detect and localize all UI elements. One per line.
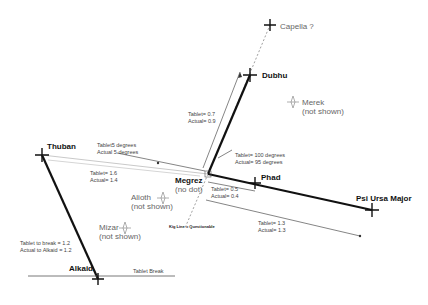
measure-actual: Actual 5 degrees [97,149,138,156]
dubhu-label: Dubhu [262,71,287,80]
measure-actual: Actual= 0.4 [211,193,239,200]
thuban-dist-arrow [48,160,200,176]
star-diagram [0,0,428,305]
alkaid-label: Alkaid [69,264,93,273]
measure-actual: Actual to Alkaid = 1.2 [20,247,72,254]
measure-tablet: Tablet= 1.6 [90,170,118,177]
phad-label: Phad [261,173,281,182]
measure-tablet: Tablet to break = 1.2 [20,240,72,247]
thuban-angle-measurement: Tablet5 degrees Actual 5 degrees [97,142,138,156]
psi-ursa-major-label: Psi Ursa Major [356,194,412,203]
megrez-note: (no dot) [175,185,203,194]
psi-measurement: Tablet= 1.3 Actual= 1.3 [258,220,286,234]
measure-actual: Actual= 1.4 [90,177,118,184]
alioth-label: Alioth (not shown) [131,193,173,211]
alioth-note: (not shown) [131,202,173,211]
thuban-label: Thuban [47,142,76,151]
phad-measurement: Tablet= 0.5 Actual= 0.4 [211,186,239,200]
mizar-note: (not shown) [99,232,141,241]
capella-label: Capella ? [280,22,314,31]
merek-note: (not shown) [302,107,344,116]
merek-label: Merek (not shown) [302,98,344,116]
measure-tablet: Tablet5 degrees [97,142,138,149]
kig-line-note: Kig Line = Questionable [169,224,215,229]
measure-actual: Actual= 95 degrees [235,159,285,166]
measure-tablet: Tablet= 0.7 [188,111,216,118]
merek-name: Merek [302,98,344,107]
measure-actual: Actual= 0.9 [188,118,216,125]
dubhu-measurement: Tablet= 0.7 Actual= 0.9 [188,111,216,125]
mizar-label: Mizar (not shown) [99,223,141,241]
angle-pointer [218,150,232,158]
dubhu-angle-measurement: Tablet= 100 degrees Actual= 95 degrees [235,152,285,166]
measure-actual: Actual= 1.3 [258,227,286,234]
measure-tablet: Tablet= 0.5 [211,186,239,193]
megrez-label: Megrez (no dot) [175,176,203,194]
mizar-name: Mizar [99,223,141,232]
measure-tablet: Tablet= 100 degrees [235,152,285,159]
measure-tablet: Tablet= 1.3 [258,220,286,227]
star-crosses [35,19,379,285]
tablet-break-label: Tablet Break [133,268,164,275]
alioth-name: Alioth [131,193,173,202]
thuban-dist-measurement: Tablet= 1.6 Actual= 1.4 [90,170,118,184]
megrez-name: Megrez [175,176,203,185]
thuban-megrez-line [42,155,208,174]
alkaid-measurement: Tablet to break = 1.2 Actual to Alkaid =… [20,240,72,254]
